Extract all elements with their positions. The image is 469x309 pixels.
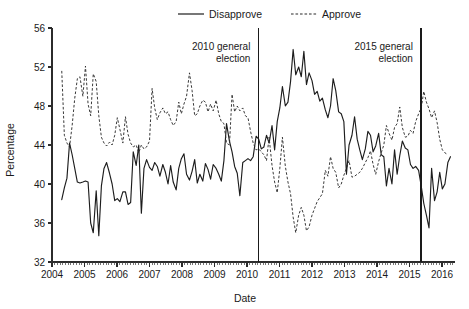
y-tick-label: 36	[34, 218, 46, 229]
event-markers: 2010 generalelection2015 generalelection	[192, 28, 421, 262]
y-tick-label: 56	[34, 23, 46, 34]
x-tick-label: 2012	[301, 269, 324, 280]
y-axis-title: Percentage	[4, 123, 16, 177]
x-axis-tick-labels: 2004200520062007200820092010201120122013…	[41, 269, 454, 280]
chart-container: DisapproveApprove 32364044485256 2004200…	[0, 0, 469, 309]
x-tick-label: 2015	[398, 269, 421, 280]
y-axis-tick-labels: 32364044485256	[34, 23, 46, 268]
chart-legend: DisapproveApprove	[178, 8, 361, 20]
election-annotation-line2: election	[216, 53, 250, 64]
x-tick-label: 2008	[171, 269, 194, 280]
x-axis-title: Date	[234, 292, 256, 304]
election-annotation-line2: election	[378, 53, 412, 64]
legend-label-approve: Approve	[322, 8, 361, 20]
y-tick-label: 52	[34, 62, 46, 73]
x-tick-label: 2005	[73, 269, 96, 280]
x-tick-label: 2014	[366, 269, 389, 280]
x-tick-label: 2006	[106, 269, 129, 280]
series-line-disapprove	[62, 49, 451, 235]
y-tick-label: 32	[34, 257, 46, 268]
x-tick-label: 2013	[333, 269, 356, 280]
x-tick-label: 2010	[236, 269, 259, 280]
election-annotation-line1: 2015 general	[354, 41, 412, 52]
chart-series	[62, 49, 451, 235]
y-tick-label: 48	[34, 101, 46, 112]
poll-trend-line-chart: DisapproveApprove 32364044485256 2004200…	[0, 0, 469, 309]
y-tick-label: 40	[34, 179, 46, 190]
x-tick-label: 2011	[269, 269, 291, 280]
legend-label-disapprove: Disapprove	[209, 8, 262, 20]
x-tick-label: 2007	[138, 269, 161, 280]
x-tick-label: 2009	[203, 269, 226, 280]
election-annotation-line1: 2010 general	[192, 41, 250, 52]
x-tick-label: 2016	[431, 269, 454, 280]
y-tick-label: 44	[34, 140, 46, 151]
x-tick-label: 2004	[41, 269, 64, 280]
